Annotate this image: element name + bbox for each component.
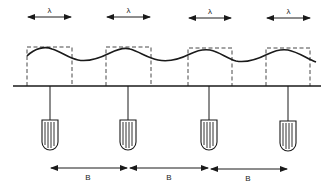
wavelength-arrow-2: λ	[107, 6, 150, 17]
bulb-icon	[201, 120, 217, 150]
emitter-2	[120, 86, 136, 150]
wavelength-arrow-1: λ	[28, 6, 71, 17]
dashed-box-2	[106, 47, 151, 86]
bulb-icon	[120, 120, 136, 150]
spacing-label: B	[85, 173, 90, 182]
wavelength-arrow-3: λ	[189, 7, 231, 18]
bulb-icon	[280, 121, 296, 151]
lambda-label: λ	[287, 7, 291, 16]
emitters	[42, 86, 296, 151]
lambda-label: λ	[208, 7, 212, 16]
bulb-icon	[42, 120, 58, 150]
spacing-arrow-1: B	[51, 168, 127, 182]
wave-diagram: λ λ λ λ	[0, 0, 333, 188]
spacing-label: B	[166, 173, 171, 182]
lambda-label: λ	[127, 6, 131, 15]
spacing-arrow-3: B	[211, 169, 287, 183]
wavelength-arrows: λ λ λ λ	[28, 6, 310, 18]
dashed-boxes	[27, 47, 310, 86]
wave-curve	[27, 48, 316, 62]
dashed-box-3	[188, 48, 232, 86]
dashed-box-1	[27, 47, 72, 86]
emitter-1	[42, 86, 58, 150]
dashed-box-4	[266, 48, 310, 86]
spacing-arrows: B B B	[51, 168, 287, 183]
spacing-arrow-2: B	[130, 168, 208, 182]
lambda-label: λ	[48, 6, 52, 15]
emitter-3	[201, 86, 217, 150]
wavelength-arrow-4: λ	[267, 7, 310, 18]
emitter-4	[280, 86, 296, 151]
spacing-label: B	[245, 174, 250, 183]
